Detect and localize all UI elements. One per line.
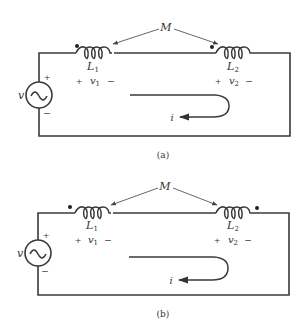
source-label-a: v: [18, 89, 25, 102]
inductor-l1-coil-a: [76, 47, 112, 59]
mutual-label-b: M: [158, 180, 171, 193]
caption-a: (a): [157, 150, 169, 160]
source-minus-a: −: [43, 108, 51, 118]
coupled-inductor-diagrams: M v + − L1 + v1 − L2 + v2 − i (a) M v +: [0, 0, 305, 329]
mutual-label-a: M: [159, 21, 172, 34]
current-label-b: i: [169, 275, 172, 286]
figure-b: M v + − L1 + v1 − L2 + v2 − i (b): [17, 180, 289, 319]
mutual-arrow-left-b: [111, 188, 158, 205]
polarity-dot-l2-a: [210, 45, 214, 49]
v1-plus-a: +: [76, 77, 83, 86]
l2-label-b: L2: [226, 219, 239, 233]
polarity-dot-l1-a: [75, 44, 79, 48]
v2-label-a: v2: [229, 75, 239, 88]
inductor-l2-coil-a: [216, 47, 252, 59]
l1-label-b: L1: [85, 219, 98, 233]
v1-minus-a: −: [107, 76, 115, 86]
figure-a: M v + − L1 + v1 − L2 + v2 − i (a): [18, 21, 290, 160]
v1-minus-b: −: [104, 235, 112, 245]
polarity-dot-l2-b: [255, 206, 259, 210]
source-plus-b: +: [43, 231, 50, 240]
sine-icon-a: [31, 92, 47, 100]
l2-label-a: L2: [226, 60, 239, 74]
current-arrow-b: [129, 257, 228, 280]
polarity-dot-l1-b: [68, 205, 72, 209]
v2-plus-b: +: [214, 236, 221, 245]
v2-minus-a: −: [245, 76, 253, 86]
source-label-b: v: [17, 247, 24, 260]
mutual-arrow-left-a: [113, 29, 159, 44]
l1-label-a: L1: [86, 60, 99, 74]
current-arrow-a: [130, 95, 229, 117]
current-label-a: i: [170, 112, 173, 123]
v1-label-a: v1: [90, 75, 100, 88]
wire-loop-b: [38, 213, 289, 295]
mutual-arrow-right-a: [174, 29, 218, 44]
v1-plus-b: +: [75, 236, 82, 245]
mutual-arrow-right-b: [173, 188, 217, 205]
caption-b: (b): [157, 309, 170, 319]
v2-label-b: v2: [228, 234, 238, 247]
v2-plus-a: +: [215, 77, 222, 86]
source-minus-b: −: [41, 266, 49, 276]
source-plus-a: +: [44, 73, 51, 82]
v2-minus-b: −: [244, 235, 252, 245]
v1-label-b: v1: [88, 234, 98, 247]
inductor-l2-coil-b: [216, 207, 252, 219]
inductor-l1-coil-b: [75, 207, 111, 219]
sine-icon-b: [30, 250, 46, 258]
